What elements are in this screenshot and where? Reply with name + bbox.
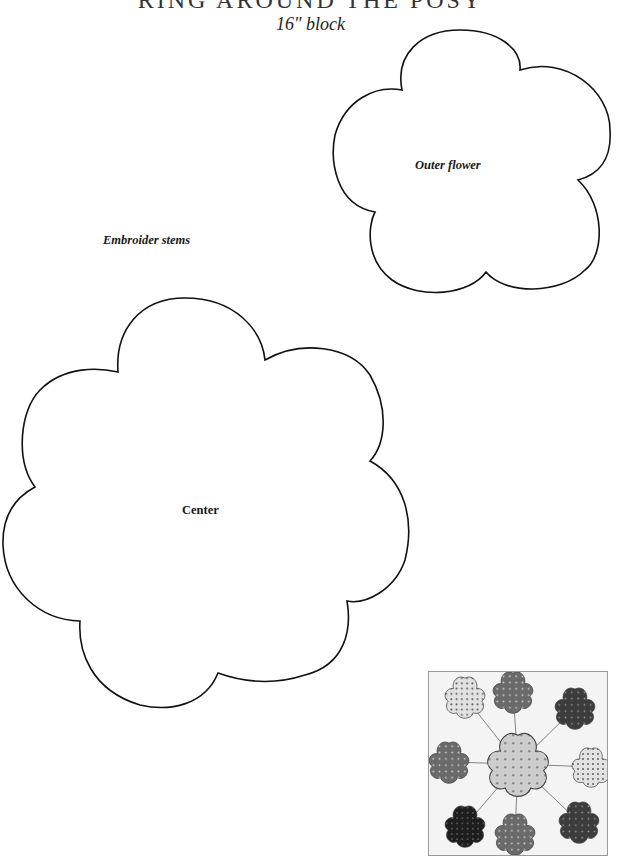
preview-flower-light [445,677,485,718]
preview-flower-black [445,806,485,847]
preview-flower-medium [495,814,535,855]
preview-flower-medium [429,742,469,783]
embroider-stems-note: Embroider stems [103,233,190,248]
finished-block-preview [428,671,608,856]
preview-flower-medium [493,672,533,713]
outer-flower-label: Outer flower [415,158,481,173]
center-label: Center [182,503,219,518]
preview-flower-light [572,748,607,787]
preview-flower-dark [555,688,595,729]
preview-flower-paisley [559,802,599,843]
